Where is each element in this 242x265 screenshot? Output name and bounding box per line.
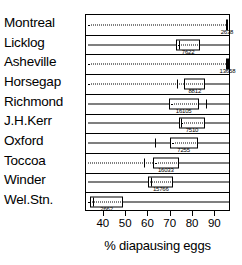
box-fill: [186, 83, 203, 84]
boxplot-row: [86, 74, 229, 93]
x-tick-label: 60: [141, 217, 154, 229]
box-fill: [92, 202, 120, 203]
boxplot-row: [86, 114, 229, 133]
category-label: J.H.Kerr: [0, 114, 81, 128]
x-tick-mark: [192, 211, 193, 216]
x-tick-label: 50: [119, 217, 132, 229]
median-marker: [151, 178, 152, 187]
box-fill: [181, 123, 204, 124]
category-label: Winder: [0, 173, 81, 187]
boxplot-row: [86, 134, 229, 153]
median-marker: [144, 158, 145, 167]
whisker-low: [88, 64, 226, 65]
whisker-high: [200, 44, 229, 45]
box-fill: [150, 182, 171, 183]
boxplot-row: [86, 55, 229, 74]
category-label: Richmond: [0, 95, 81, 109]
median-marker: [93, 198, 94, 207]
x-axis: 405060708090: [85, 211, 230, 241]
whisker-high: [173, 182, 229, 183]
x-axis-title: % diapausing eggs: [85, 238, 230, 253]
whisker-low: [88, 182, 148, 183]
median-marker: [206, 99, 207, 108]
whisker-low: [88, 123, 178, 124]
x-tick-label: 40: [96, 217, 109, 229]
median-marker: [177, 79, 178, 88]
boxplot-row: [86, 35, 229, 54]
box-fill: [172, 143, 196, 144]
category-label: Licklog: [0, 36, 81, 50]
x-tick-mark: [125, 211, 126, 216]
category-axis-labels: MontrealLicklogAshevilleHorsegapRichmond…: [0, 0, 84, 210]
median-marker: [181, 119, 182, 128]
whisker-low: [88, 143, 169, 144]
x-tick-label: 70: [163, 217, 176, 229]
category-label: Horsegap: [0, 75, 81, 89]
box-fill: [171, 103, 197, 104]
x-tick-label: 90: [208, 217, 221, 229]
category-label: Oxford: [0, 134, 81, 148]
plot-area: 2638762213658881216105751072551603315766…: [85, 14, 230, 211]
x-tick-mark: [103, 211, 104, 216]
whisker-high: [205, 123, 228, 124]
whisker-high: [205, 83, 228, 84]
x-tick-label: 80: [186, 217, 199, 229]
category-label: Toccoa: [0, 154, 81, 168]
box-fill: [178, 44, 197, 45]
whisker-high: [199, 103, 229, 104]
whisker-low: [88, 24, 225, 25]
x-tick-mark: [147, 211, 148, 216]
median-marker: [179, 40, 180, 49]
boxplot-row: [86, 15, 229, 34]
whisker-low: [88, 44, 176, 45]
category-label: Wel.Stn.: [0, 193, 81, 207]
median-marker: [155, 139, 156, 148]
boxplot-row: [86, 94, 229, 113]
category-label: Asheville: [0, 55, 81, 69]
whisker-low: [88, 83, 184, 84]
whisker-high: [179, 162, 229, 163]
whisker-high: [198, 143, 229, 144]
x-tick-mark: [170, 211, 171, 216]
whisker-high: [123, 202, 229, 203]
x-tick-mark: [214, 211, 215, 216]
whisker-low: [88, 103, 168, 104]
plot-inner: 2638762213658881216105751072551603315766…: [86, 15, 229, 210]
category-label: Montreal: [0, 16, 81, 30]
box-fill: [155, 162, 177, 163]
boxplot-figure: MontrealLicklogAshevilleHorsegapRichmond…: [0, 0, 242, 265]
